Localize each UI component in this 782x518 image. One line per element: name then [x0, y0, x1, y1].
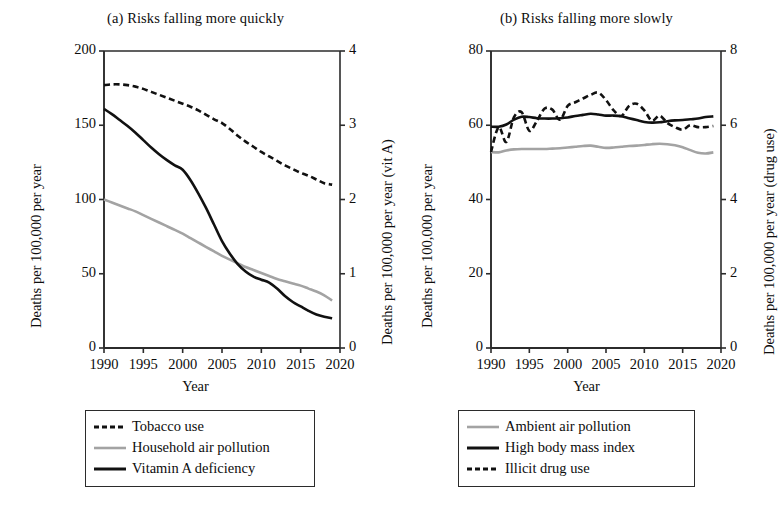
legend-item[interactable]: Tobacco use: [93, 416, 305, 437]
legend-line-swatch: [93, 420, 127, 434]
y2-axis-tick-label: 4: [730, 190, 752, 207]
y-axis-tick-label: 50: [42, 264, 96, 281]
y-axis-tick-label: 200: [42, 41, 96, 58]
legend-item-label: Tobacco use: [132, 419, 204, 434]
panel-b-y2-axis-label: Deaths per 100,000 per year (drug use): [761, 128, 778, 355]
legend-line-swatch: [93, 441, 127, 455]
panel-a-legend: Tobacco useHousehold air pollutionVitami…: [85, 410, 315, 487]
y-axis-tick-label: 60: [429, 115, 483, 132]
legend-item-label: Household air pollution: [132, 440, 270, 455]
y2-axis-tick-label: 3: [349, 115, 371, 132]
panel-a-x-axis-label: Year: [0, 378, 391, 395]
legend-item[interactable]: High body mass index: [466, 437, 685, 458]
y-axis-tick-label: 150: [42, 115, 96, 132]
y-axis-tick-label: 0: [42, 338, 96, 355]
legend-line-swatch: [93, 462, 127, 476]
panel-b-x-axis-label: Year: [391, 378, 782, 395]
legend-line-swatch: [466, 420, 500, 434]
y2-axis-tick-label: 0: [730, 338, 752, 355]
figure-risk-trends: (a) Risks falling more quickly Deaths pe…: [0, 0, 782, 518]
legend-item[interactable]: Vitamin A deficiency: [93, 458, 305, 479]
y2-axis-tick-label: 4: [349, 41, 371, 58]
legend-line-swatch: [466, 441, 500, 455]
legend-item-label: Vitamin A deficiency: [132, 461, 255, 476]
y-axis-tick-label: 0: [429, 338, 483, 355]
y2-axis-tick-label: 2: [349, 190, 371, 207]
y-axis-tick-label: 80: [429, 41, 483, 58]
series-line-household-air-pollution: [104, 200, 332, 301]
y-axis-tick-label: 100: [42, 190, 96, 207]
y-axis-tick-label: 40: [429, 190, 483, 207]
legend-item[interactable]: Household air pollution: [93, 437, 305, 458]
x-axis-tick-label: 2020: [696, 356, 746, 373]
panel-b-legend: Ambient air pollutionHigh body mass inde…: [458, 410, 695, 487]
series-line-ambient-air-pollution: [491, 144, 713, 154]
legend-item-label: Ambient air pollution: [505, 419, 631, 434]
y-axis-tick-label: 20: [429, 264, 483, 281]
x-axis-tick-label: 2020: [315, 356, 365, 373]
legend-item-label: Illicit drug use: [505, 461, 590, 476]
y2-axis-tick-label: 6: [730, 115, 752, 132]
legend-line-swatch: [466, 462, 500, 476]
legend-item[interactable]: Ambient air pollution: [466, 416, 685, 437]
legend-item-label: High body mass index: [505, 440, 635, 455]
y2-axis-tick-label: 0: [349, 338, 371, 355]
y2-axis-tick-label: 8: [730, 41, 752, 58]
panel-a: (a) Risks falling more quickly Deaths pe…: [0, 0, 391, 518]
legend-item[interactable]: Illicit drug use: [466, 458, 685, 479]
panel-b: (b) Risks falling more slowly Deaths per…: [391, 0, 782, 518]
y2-axis-tick-label: 1: [349, 264, 371, 281]
y2-axis-tick-label: 2: [730, 264, 752, 281]
series-line-illicit-drug-use: [491, 92, 713, 152]
